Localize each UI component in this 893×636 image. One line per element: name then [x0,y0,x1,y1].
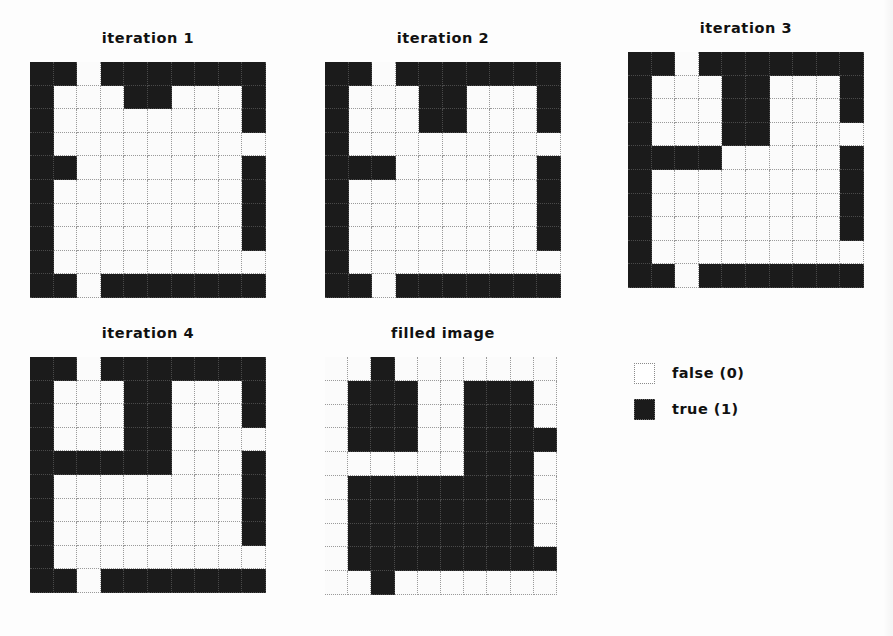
grid-filled-image [325,357,557,595]
grid-cell [441,571,464,595]
grid-cell [534,428,557,452]
grid-cell [443,109,467,133]
grid-cell [242,180,266,204]
grid-cell [325,156,349,180]
grid-cell [30,133,54,157]
grid-cell [325,133,349,157]
grid-cell [722,264,746,288]
grid-cell [325,62,349,86]
grid-cell [395,500,418,524]
grid-cell [172,569,196,593]
grid-cell [514,274,538,298]
grid-cell [101,62,125,86]
grid-cell [793,146,817,170]
grid-cell [54,109,78,133]
grid-cell [242,62,266,86]
grid-cell [793,217,817,241]
grid-cell [195,522,219,546]
grid-cell [441,524,464,548]
grid-cell [124,357,148,381]
grid-cell [172,204,196,228]
grid-cell [396,86,420,110]
grid-cell [124,546,148,570]
grid-cell [817,99,841,123]
grid-cell [441,476,464,500]
grid-cell [467,227,491,251]
grid-cell [101,274,125,298]
grid-cell [77,180,101,204]
grid-cell [242,381,266,405]
grid-cell [419,274,443,298]
panel-iteration-2: iteration 2 [325,30,561,298]
grid-cell [396,62,420,86]
grid-cell [101,499,125,523]
grid-cell [396,180,420,204]
grid-cell [840,146,864,170]
grid-cell [242,546,266,570]
grid-cell [325,381,348,405]
grid-cell [490,227,514,251]
grid-cell [77,357,101,381]
grid-cell [195,546,219,570]
grid-cell [172,156,196,180]
grid-cell [490,251,514,275]
grid-cell [467,109,491,133]
grid-cell [30,499,54,523]
grid-cell [172,251,196,275]
grid-cell [840,217,864,241]
grid-cell [537,227,561,251]
grid-cell [325,109,349,133]
grid-cell [487,571,510,595]
grid-cell [348,428,371,452]
grid-cell [537,180,561,204]
grid-cell [840,264,864,288]
grid-cell [770,52,794,76]
grid-cell [628,52,652,76]
panel-iteration-4: iteration 4 [30,325,266,593]
grid-cell [464,571,487,595]
grid-cell [628,194,652,218]
grid-cell [396,227,420,251]
grid-cell [487,428,510,452]
grid-cell [419,156,443,180]
grid-cell [242,86,266,110]
grid-cell [770,241,794,265]
grid-cell [699,217,723,241]
grid-cell [349,156,373,180]
grid-cell [487,500,510,524]
grid-cell [148,251,172,275]
grid-cell [195,86,219,110]
grid-cell [372,251,396,275]
grid-cell [124,156,148,180]
grid-cell [148,569,172,593]
grid-cell [124,451,148,475]
panel-title-filled-image: filled image [325,325,561,341]
grid-cell [537,86,561,110]
grid-cell [419,133,443,157]
grid-cell [77,109,101,133]
grid-cell [770,146,794,170]
grid-cell [699,76,723,100]
grid-cell [124,86,148,110]
grid-cell [219,156,243,180]
grid-cell [54,499,78,523]
grid-cell [30,204,54,228]
grid-cell [148,475,172,499]
grid-cell [219,451,243,475]
grid-cell [101,428,125,452]
grid-cell [195,180,219,204]
grid-cell [148,404,172,428]
grid-cell [124,204,148,228]
grid-cell [242,274,266,298]
grid-iteration-1 [30,62,266,298]
grid-cell [793,99,817,123]
grid-cell [628,123,652,147]
grid-cell [652,146,676,170]
grid-cell [124,109,148,133]
grid-cell [101,109,125,133]
grid-cell [443,62,467,86]
grid-cell [172,62,196,86]
grid-cell [770,170,794,194]
grid-cell [219,204,243,228]
grid-cell [148,428,172,452]
